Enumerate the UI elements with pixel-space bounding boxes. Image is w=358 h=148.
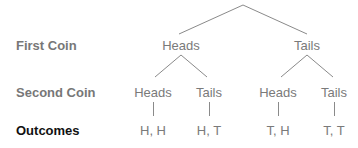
branch-tails-tails — [307, 55, 333, 77]
outcome-th: T, H — [266, 123, 289, 138]
branch-heads-heads — [155, 55, 181, 77]
node-second-heads-2: Heads — [259, 85, 297, 100]
node-second-tails-2: Tails — [321, 85, 347, 100]
branch-heads-tails — [181, 55, 207, 77]
branch-root-tails — [243, 5, 307, 34]
outcomes-label: Outcomes — [16, 123, 80, 138]
outcome-hh: H, H — [140, 123, 166, 138]
outcome-ht: H, T — [197, 123, 221, 138]
outcome-tt: T, T — [323, 123, 344, 138]
node-first-tails: Tails — [294, 38, 320, 53]
node-first-heads: Heads — [162, 38, 200, 53]
branch-tails-heads — [281, 55, 307, 77]
branch-root-heads — [179, 5, 243, 34]
first-coin-label: First Coin — [16, 38, 77, 53]
node-second-heads-1: Heads — [134, 85, 172, 100]
node-second-tails-1: Tails — [196, 85, 222, 100]
second-coin-label: Second Coin — [16, 85, 95, 100]
